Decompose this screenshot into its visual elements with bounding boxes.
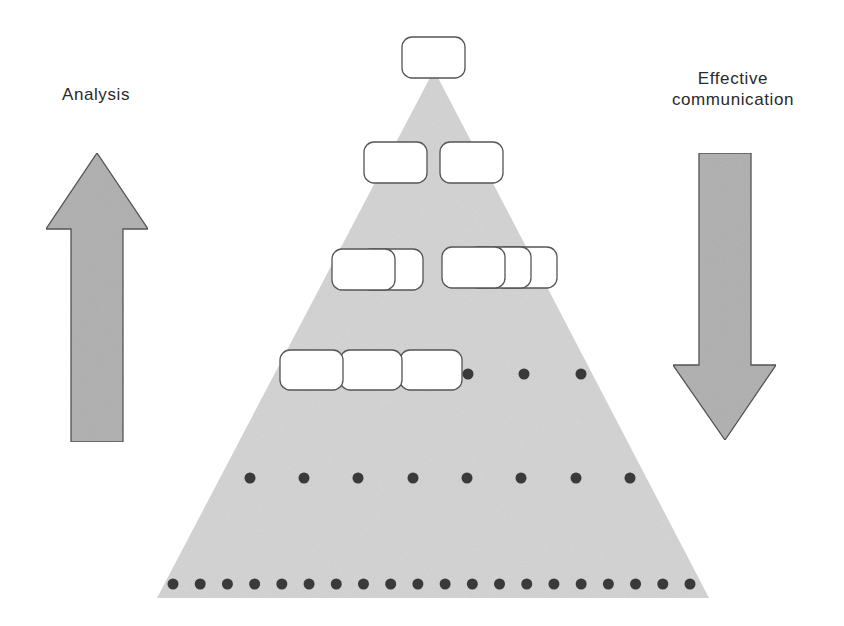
node-dot [657, 579, 668, 590]
node-box [442, 247, 505, 288]
node-dot [685, 579, 696, 590]
node-dot [630, 579, 641, 590]
node-dot [440, 579, 451, 590]
node-box [364, 142, 427, 183]
node-dot [385, 579, 396, 590]
node-box [400, 350, 462, 390]
node-box [332, 249, 395, 290]
node-box [440, 142, 503, 183]
node-dot [625, 473, 636, 484]
node-dot [521, 579, 532, 590]
node-box [402, 37, 465, 78]
node-dot [299, 473, 310, 484]
node-dot [304, 579, 315, 590]
node-dot [222, 579, 233, 590]
effective-communication-label: Effective communication [658, 68, 808, 110]
node-box [280, 350, 343, 390]
node-dot [353, 473, 364, 484]
down-arrow-icon [673, 153, 776, 440]
node-dot [249, 579, 260, 590]
analysis-label: Analysis [40, 84, 152, 105]
node-dot [494, 579, 505, 590]
stacked-box-group-right [442, 247, 557, 288]
node-dot [245, 473, 256, 484]
node-dot [331, 579, 342, 590]
node-dot [276, 579, 287, 590]
node-dot [571, 473, 582, 484]
node-dot [358, 579, 369, 590]
node-dot [519, 369, 530, 380]
up-arrow-icon [46, 153, 148, 442]
node-dot [603, 579, 614, 590]
node-dot [195, 579, 206, 590]
pyramid-shape [157, 70, 709, 598]
node-dot [576, 579, 587, 590]
effective-communication-line2: communication [658, 89, 808, 110]
node-dot [516, 473, 527, 484]
node-box [340, 350, 402, 390]
node-dot [168, 579, 179, 590]
effective-communication-line1: Effective [658, 68, 808, 89]
stacked-box-group-left [332, 249, 423, 290]
node-dot [462, 473, 473, 484]
level-3 [332, 247, 557, 290]
node-dot [408, 473, 419, 484]
node-dot [576, 369, 587, 380]
node-dot [548, 579, 559, 590]
node-dot [463, 369, 474, 380]
analysis-label-text: Analysis [62, 85, 130, 104]
node-dot [467, 579, 478, 590]
level-1 [402, 37, 465, 78]
node-dot [412, 579, 423, 590]
